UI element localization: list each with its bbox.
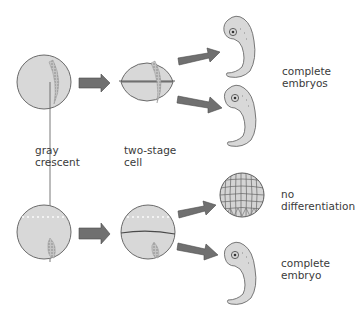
embryo-icon (224, 242, 255, 304)
embryo-icon (224, 16, 255, 77)
arrow-top-down (177, 96, 222, 113)
label-complete-embryos: complete embryos (282, 65, 331, 89)
label-two-stage-cell: two-stage cell (124, 144, 176, 168)
label-complete-embryos-line2: embryos (282, 77, 331, 89)
label-gray-crescent-line2: crescent (35, 156, 80, 168)
label-complete-embryos-line1: complete (282, 65, 331, 77)
two-stage-cell-bottom (121, 205, 175, 259)
label-no-differentiation: no differentiation (281, 188, 355, 212)
label-two-stage-cell-line1: two-stage (124, 144, 176, 156)
fertilized-egg-top (17, 55, 71, 109)
arrow-bottom-down (177, 243, 218, 260)
fertilized-egg-bottom (17, 205, 71, 259)
two-stage-cell-top (119, 61, 175, 103)
label-complete-embryo-line1: complete (281, 257, 330, 269)
label-gray-crescent-line1: gray (35, 144, 80, 156)
arrow-bottom-up (178, 201, 216, 218)
label-two-stage-cell-line2: cell (124, 156, 176, 168)
undifferentiated-cell-ball-icon (220, 173, 264, 217)
embryo-icon (224, 85, 255, 146)
label-no-differentiation-line1: no (281, 188, 355, 200)
label-complete-embryo-line2: embryo (281, 269, 330, 281)
arrow-top-up (178, 48, 220, 65)
label-gray-crescent: gray crescent (35, 144, 80, 168)
label-complete-embryo: complete embryo (281, 257, 330, 281)
arrow-top-1 (79, 74, 110, 92)
arrow-bottom-1 (79, 223, 110, 244)
label-no-differentiation-line2: differentiation (281, 200, 355, 212)
